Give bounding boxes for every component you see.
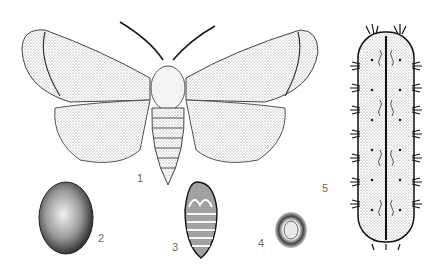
moth-abdomen bbox=[152, 108, 184, 185]
label-3: 3 bbox=[172, 242, 178, 253]
moth-thorax bbox=[151, 66, 185, 110]
label-5: 5 bbox=[322, 183, 328, 194]
forewing-right bbox=[186, 30, 318, 102]
forewing-left bbox=[22, 30, 150, 102]
illustration-svg bbox=[0, 0, 448, 275]
cocoon-figure bbox=[39, 182, 93, 254]
antenna-right bbox=[173, 26, 215, 60]
adult-moth-figure bbox=[22, 22, 318, 185]
hindwing-right bbox=[186, 100, 285, 162]
egg-figure bbox=[275, 212, 307, 248]
label-4: 4 bbox=[258, 238, 264, 249]
antenna-left bbox=[120, 22, 163, 60]
hindwing-left bbox=[55, 100, 150, 162]
pupa-figure bbox=[185, 182, 217, 258]
illustration-canvas: 1 2 3 4 5 bbox=[0, 0, 448, 275]
larva-figure bbox=[350, 24, 422, 250]
label-1: 1 bbox=[137, 173, 143, 184]
label-2: 2 bbox=[98, 233, 104, 244]
